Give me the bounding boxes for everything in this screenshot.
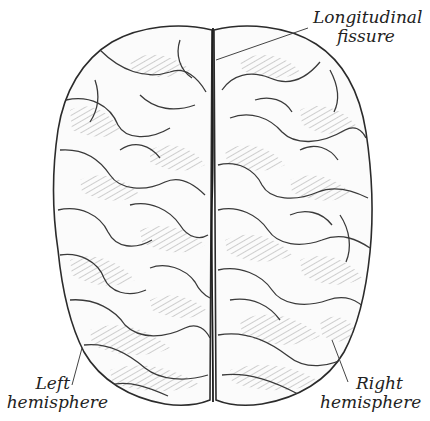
label-left-hemisphere-line1: Left [2, 374, 108, 393]
label-longitudinal-fissure-line1: Longitudinal [313, 8, 422, 27]
label-longitudinal-fissure: Longitudinal fissure [313, 8, 422, 46]
longitudinal-fissure-line [212, 28, 213, 402]
left-hemisphere [54, 26, 213, 405]
label-right-hemisphere: Right hemisphere [320, 374, 421, 412]
brain-illustration [0, 0, 430, 421]
right-hemisphere [214, 26, 372, 405]
label-right-hemisphere-line2: hemisphere [320, 393, 421, 412]
label-right-hemisphere-line1: Right [320, 374, 421, 393]
brain-diagram: Longitudinal fissure Left hemisphere Rig… [0, 0, 430, 421]
label-left-hemisphere-line2: hemisphere [2, 393, 108, 412]
label-longitudinal-fissure-line2: fissure [313, 27, 422, 46]
label-left-hemisphere: Left hemisphere [2, 374, 108, 412]
